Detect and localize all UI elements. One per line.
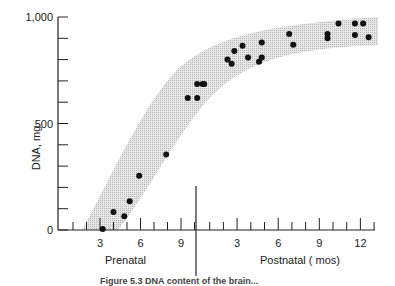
data-point [136, 173, 142, 179]
y-tick-label: 0 [47, 224, 53, 236]
confidence-band [82, 17, 378, 230]
data-point [352, 20, 358, 26]
svg-text:6: 6 [275, 237, 281, 249]
data-point [259, 40, 265, 46]
svg-text:12: 12 [354, 237, 366, 249]
data-point [194, 81, 200, 87]
svg-text:3: 3 [97, 237, 103, 249]
y-axis-title: DNA, mg [30, 126, 42, 171]
data-point [335, 20, 341, 26]
svg-text:3: 3 [234, 237, 240, 249]
svg-text:6: 6 [137, 237, 143, 249]
data-point [352, 32, 358, 38]
data-point [100, 226, 106, 232]
data-point [290, 42, 296, 48]
x-axis-title-postnatal: Postnatal ( mos) [260, 254, 340, 266]
data-point [185, 95, 191, 101]
data-point [286, 31, 292, 37]
axes: 05001,00036936912 [25, 11, 375, 276]
data-point [201, 81, 207, 87]
data-point [229, 61, 235, 67]
data-point [240, 43, 246, 49]
data-point [194, 95, 200, 101]
data-point [127, 198, 133, 204]
data-point [111, 209, 117, 215]
data-point [245, 54, 251, 60]
svg-text:9: 9 [316, 237, 322, 249]
data-point [325, 31, 331, 37]
x-axis-title-prenatal: Prenatal [105, 254, 146, 266]
svg-text:9: 9 [178, 237, 184, 249]
data-point [360, 20, 366, 26]
data-point [366, 34, 372, 40]
figure-caption: Figure 5.3 DNA content of the brain... [100, 276, 258, 286]
data-point [231, 48, 237, 54]
data-point [121, 213, 127, 219]
data-point [259, 54, 265, 60]
data-point [163, 151, 169, 157]
y-tick-label: 1,000 [25, 11, 53, 23]
